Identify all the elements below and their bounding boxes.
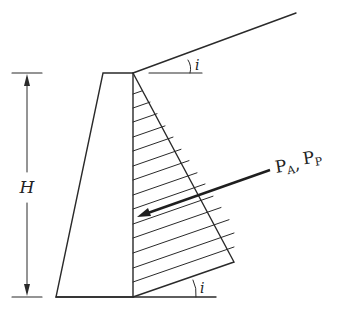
dimension-arrow-up-icon: [24, 74, 30, 86]
top-slope-angle-label: i: [195, 57, 199, 73]
pressure-triangle: [133, 73, 234, 297]
retaining-wall: [56, 73, 133, 297]
top-angle-arc: [188, 60, 191, 73]
svg-text:PA,PP: PA,PP: [273, 146, 325, 179]
dimension-arrow-down-icon: [24, 284, 30, 296]
height-label: H: [19, 177, 36, 197]
retaining-wall-diagram: H i i PA,PP: [0, 0, 346, 320]
force-arrowhead-icon: [137, 208, 151, 217]
force-label: PA,PP: [273, 146, 325, 179]
pressure-hatching: [133, 91, 234, 282]
force-arrow-shaft: [145, 170, 270, 214]
backfill-slope-line: [133, 13, 296, 73]
bottom-angle-arc: [193, 280, 196, 297]
bottom-slope-angle-label: i: [200, 280, 204, 296]
